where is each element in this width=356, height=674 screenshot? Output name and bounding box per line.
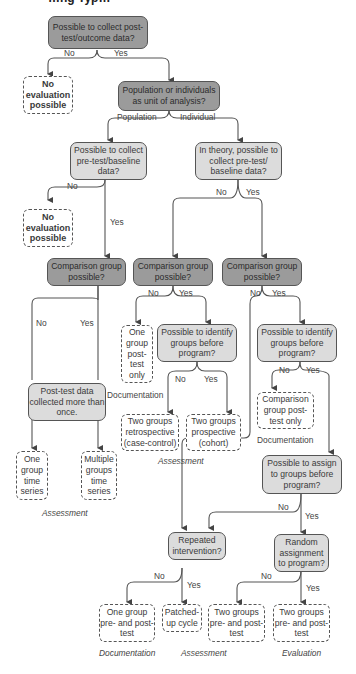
edge-label-yes: Yes — [204, 374, 218, 384]
edge-label-no: No — [279, 365, 290, 375]
edge-label-population: Population — [117, 112, 157, 122]
edge-label-no: No — [278, 502, 289, 512]
node-label: Two groups pre- and post-test — [209, 607, 264, 639]
category-documentation: Documentation — [257, 435, 313, 445]
category-evaluation: Evaluation — [282, 648, 321, 658]
category-assessment: Assessment — [158, 456, 204, 466]
node-label: One group pre- and post-test — [100, 607, 154, 639]
node-assign-groups: Possible to assign to groups before prog… — [262, 455, 342, 494]
edge-label-yes: Yes — [305, 511, 319, 521]
node-label: Random assignment to program? — [275, 537, 328, 569]
node-label: Repeated intervention? — [169, 535, 225, 557]
edge-label-yes: Yes — [114, 48, 128, 58]
outcome-patched-up-cycle: Patched- up cycle — [162, 604, 202, 632]
node-label: Comparison group possible? — [223, 261, 301, 283]
node-label: Two groups retrospective (case-control) — [122, 416, 178, 448]
edge-label-no: No — [67, 181, 78, 191]
node-label: One group post- test only — [122, 327, 152, 381]
node-label: No evaluation possible — [24, 79, 72, 111]
edge-label-yes: Yes — [272, 288, 286, 298]
edge-label-no: No — [250, 288, 261, 298]
edge-label-yes: Yes — [306, 583, 320, 593]
node-label: Two groups pre- and post-test — [274, 607, 329, 639]
outcome-comparison-post-test-only: Comparison group post- test only — [257, 392, 314, 429]
node-identify-groups-2: Possible to identify groups before progr… — [257, 324, 337, 362]
node-random-assignment: Random assignment to program? — [274, 534, 329, 572]
node-post-test-multiple: Post-test data collected more than once. — [28, 383, 106, 421]
outcome-no-evaluation-2: No evaluation possible — [23, 209, 73, 247]
node-label: Possible to collect pre-test/baseline da… — [71, 145, 146, 177]
node-repeated-intervention: Repeated intervention? — [168, 532, 226, 560]
node-label: Multiple groups time series — [82, 454, 116, 497]
outcome-multiple-groups-time-series: Multiple groups time series — [81, 451, 117, 500]
outcome-one-group-post-test: One group post- test only — [121, 325, 153, 383]
outcome-two-groups-pre-post-1: Two groups pre- and post-test — [208, 604, 265, 642]
category-assessment: Assessment — [181, 648, 227, 658]
node-comparison-group-3: Comparison group possible? — [222, 258, 302, 286]
node-label: One group time series — [17, 454, 47, 497]
edge-label-no: No — [261, 571, 272, 581]
node-label: Two groups prospective (cohort) — [187, 416, 240, 448]
node-comparison-group-2: Comparison group possible? — [133, 258, 213, 286]
edge-label-individual: Individual — [180, 112, 215, 122]
node-label: Post-test data collected more than once. — [29, 386, 105, 418]
category-documentation: Documentation — [99, 648, 155, 658]
node-identify-groups-1: Possible to identify groups before progr… — [157, 324, 237, 362]
edge-label-yes: Yes — [80, 318, 94, 328]
edge-label-no: No — [64, 48, 75, 58]
edge-label-no: No — [36, 318, 47, 328]
node-label: Comparison group possible? — [48, 261, 125, 283]
node-pre-test-individual-question: In theory, possible to collect pre-test/… — [195, 142, 282, 180]
edge-label-yes: Yes — [187, 580, 201, 590]
node-label: Possible to collect post-test/outcome da… — [49, 22, 147, 44]
outcome-two-groups-retrospective: Two groups retrospective (case-control) — [121, 414, 179, 451]
node-label: Patched- up cycle — [163, 607, 201, 629]
node-unit-of-analysis-question: Population or individuals as unit of ana… — [118, 81, 220, 111]
node-comparison-group-1: Comparison group possible? — [47, 258, 126, 286]
outcome-two-groups-pre-post-2: Two groups pre- and post-test — [273, 604, 330, 642]
node-post-test-data-question: Possible to collect post-test/outcome da… — [48, 16, 148, 49]
outcome-no-evaluation-1: No evaluation possible — [23, 76, 73, 114]
outcome-one-group-pre-post: One group pre- and post-test — [99, 604, 155, 642]
node-label: Possible to identify groups before progr… — [258, 327, 336, 359]
edge-label-yes: Yes — [179, 288, 193, 298]
node-label: No evaluation possible — [24, 212, 72, 244]
node-label: In theory, possible to collect pre-test/… — [196, 145, 281, 177]
edge-label-no: No — [175, 374, 186, 384]
edge-label-no: No — [216, 187, 227, 197]
node-label: Possible to identify groups before progr… — [158, 327, 236, 359]
edge-label-yes: Yes — [246, 187, 260, 197]
outcome-two-groups-prospective: Two groups prospective (cohort) — [186, 414, 241, 451]
edge-label-yes: Yes — [306, 365, 320, 375]
node-pre-test-population-question: Possible to collect pre-test/baseline da… — [70, 142, 147, 180]
edge-label-no: No — [148, 288, 159, 298]
node-label: Possible to assign to groups before prog… — [263, 458, 341, 490]
edge-label-no: No — [154, 571, 165, 581]
node-label: Population or individuals as unit of ana… — [119, 85, 219, 107]
category-assessment: Assessment — [42, 508, 88, 518]
node-label: Comparison group possible? — [134, 261, 212, 283]
outcome-one-group-time-series: One group time series — [16, 451, 48, 500]
node-label: Comparison group post- test only — [258, 394, 313, 426]
edge-label-yes: Yes — [110, 217, 124, 227]
category-documentation: Documentation — [107, 390, 163, 400]
